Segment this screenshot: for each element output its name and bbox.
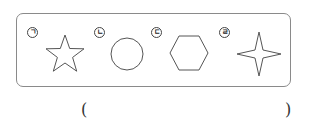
answer-open-paren: ( — [81, 100, 87, 119]
label-nieun: ㄴ — [94, 27, 105, 38]
label-giyeok: ㄱ — [27, 27, 38, 38]
circle-icon — [109, 36, 145, 72]
answer-close-paren: ) — [285, 100, 291, 119]
five-pointed-star-icon — [44, 33, 86, 75]
label-digeut: ㄷ — [151, 27, 162, 38]
hexagon-icon — [168, 33, 210, 73]
label-rieul: ㄹ — [219, 27, 230, 38]
four-pointed-star-icon — [235, 30, 283, 78]
